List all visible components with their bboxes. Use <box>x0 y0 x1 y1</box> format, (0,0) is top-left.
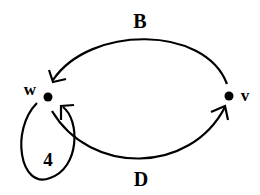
edge-d: D <box>52 106 228 190</box>
node-label-w: w <box>24 80 37 99</box>
node-label-v: v <box>241 86 250 105</box>
graph-diagram: B D 4 w v <box>0 0 260 195</box>
edge-loop-4: 4 <box>21 103 74 180</box>
node-w: w <box>24 80 53 102</box>
edge-label-4: 4 <box>43 149 53 170</box>
edge-label-d: D <box>134 168 148 190</box>
node-v: v <box>225 86 250 105</box>
edge-label-b: B <box>133 10 146 32</box>
edge-b: B <box>49 10 227 84</box>
arrowhead-icon <box>49 70 66 82</box>
